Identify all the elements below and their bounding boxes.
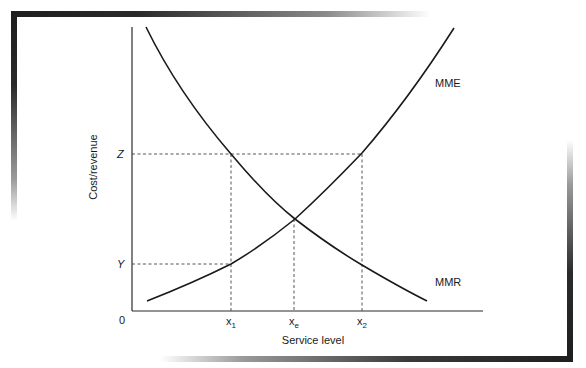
y-axis-title: Cost/revenue — [87, 134, 99, 199]
guide-lines — [132, 154, 362, 311]
x-axis-title: Service level — [282, 334, 344, 346]
y-tick-label: Y — [117, 258, 125, 270]
mme-curve — [147, 28, 454, 301]
xe-tick-label: xe — [289, 315, 300, 330]
diagram-canvas: MME MMR Z Y 0 x1 xe x2 Service level Cos… — [0, 0, 586, 368]
origin-label: 0 — [119, 314, 125, 326]
x1-tick-label: x1 — [226, 315, 237, 330]
mme-label: MME — [435, 77, 461, 89]
mmr-curve — [146, 27, 427, 301]
mmr-label: MMR — [435, 276, 461, 288]
x2-tick-label: x2 — [357, 315, 368, 330]
z-tick-label: Z — [116, 148, 125, 160]
